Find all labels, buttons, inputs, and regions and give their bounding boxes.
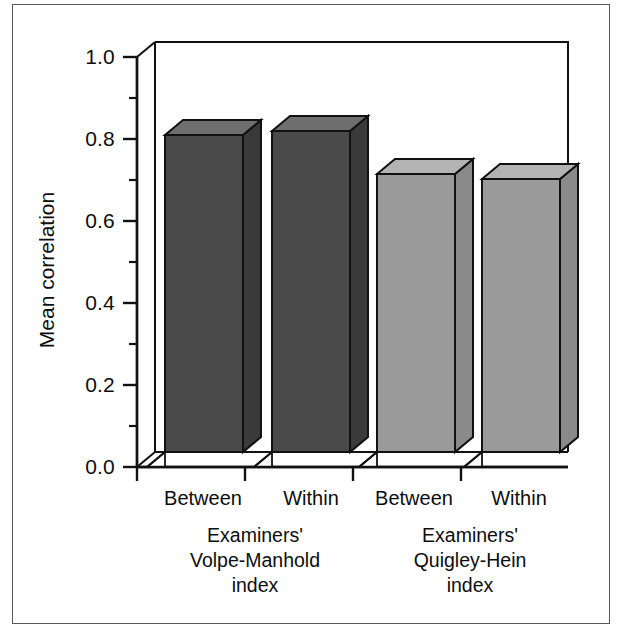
bar-side-face [350,116,368,452]
group-label-line3: index [140,573,370,598]
bar-front-face [377,174,455,452]
group-label-line1: Examiners' [355,523,585,548]
bar-volpe-within[interactable] [254,116,368,467]
bar-volpe-between[interactable] [147,120,261,467]
bar-top-face [377,159,473,174]
x-tick-label-2: Between [354,487,474,510]
bar-top-face [272,116,368,131]
y-tick-label-1: 0.2 [50,373,115,397]
bar-front-face [272,131,350,452]
bar-side-face [455,159,473,452]
y-axis-title: Mean correlation [35,160,59,380]
group-label-line1: Examiners' [140,523,370,548]
bar-front-face [482,179,560,452]
x-tick-label-1: Within [251,487,371,510]
bar-quigley-between[interactable] [359,159,473,467]
group-label-volpe-manhold: Examiners' Volpe-Manhold index [140,523,370,598]
bar-side-face [560,164,578,452]
group-label-line2: Volpe-Manhold [140,548,370,573]
group-label-line3: index [355,573,585,598]
bar-side-face [243,120,261,452]
y-tick-label-4: 0.8 [50,127,115,151]
group-label-quigley-hein: Examiners' Quigley-Hein index [355,523,585,598]
bar-top-face [165,120,261,135]
bar-front-face [165,135,243,452]
y-tick-label-2: 0.4 [50,291,115,315]
x-tick-label-3: Within [459,487,579,510]
y-tick-label-3: 0.6 [50,209,115,233]
y-tick-label-5: 1.0 [50,45,115,69]
y-axis [123,57,137,467]
group-label-line2: Quigley-Hein [355,548,585,573]
bar-chart: 0.0 0.2 0.4 0.6 0.8 1.0 Mean correlation… [0,0,623,633]
bar-top-face [482,164,578,179]
plot-floor [137,452,568,467]
x-tick-label-0: Between [143,487,263,510]
y-tick-label-0: 0.0 [50,455,115,479]
x-axis [137,467,568,481]
bar-quigley-within[interactable] [464,164,578,467]
